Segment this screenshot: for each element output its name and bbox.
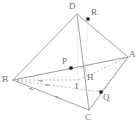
tick-mark-group: [30, 81, 59, 98]
tick-BC-2: [56, 96, 59, 97]
solid-edge-group: [13, 14, 128, 110]
point-label-r: R: [91, 8, 97, 17]
vertex-label-b: B: [2, 75, 8, 84]
edge-DC: [77, 14, 89, 110]
vertex-label-a: A: [129, 50, 136, 59]
point-label-q: Q: [103, 93, 110, 102]
point-dot-r: [86, 17, 89, 20]
point-label-h: H: [87, 73, 94, 82]
geometry-figure: DABCRPHIQ: [0, 0, 139, 136]
vertex-label-d: D: [69, 2, 76, 11]
point-label-i: I: [75, 82, 78, 91]
tick-BC-1: [30, 88, 33, 89]
segment-D-I-vertical: [77, 14, 78, 88]
edge-DB: [13, 14, 77, 80]
point-label-p: P: [62, 57, 67, 66]
figure-canvas: [0, 0, 139, 136]
point-dot-p: [69, 66, 72, 69]
edge-DA: [77, 14, 128, 57]
vertex-label-c: C: [85, 113, 91, 122]
